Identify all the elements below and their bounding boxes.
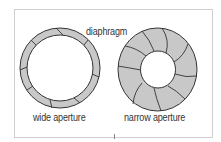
wide-aperture-label: wide aperture — [33, 111, 85, 123]
narrow-aperture-label: narrow aperture — [124, 111, 185, 123]
narrow-aperture-diaphragm — [118, 28, 197, 111]
diaphragm-label: diaphragm — [86, 25, 127, 37]
wide-aperture-diaphragm — [20, 28, 100, 108]
